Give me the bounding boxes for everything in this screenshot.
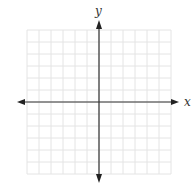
x-axis-label: x: [184, 95, 191, 109]
x-axis-right-arrow-icon: [171, 99, 179, 105]
y-axis-bottom-arrow-icon: [96, 174, 102, 183]
x-axis-left-arrow-icon: [17, 99, 25, 105]
y-axis-label: y: [94, 4, 102, 18]
y-axis-top-arrow-icon: [96, 20, 102, 29]
x-axis: [17, 99, 179, 105]
coordinate-plane: x y: [0, 0, 195, 185]
